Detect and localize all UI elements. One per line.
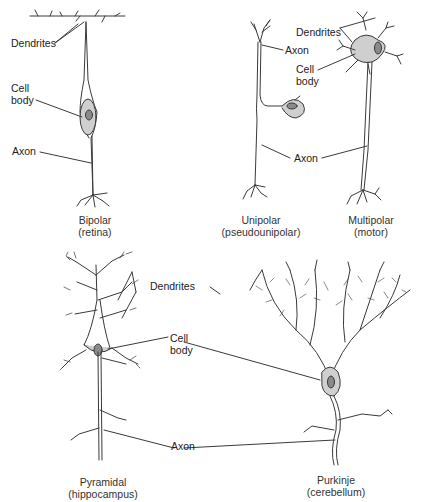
unipolar-axon-label: Axon xyxy=(285,44,309,56)
unipolar-caption: Unipolar (pseudounipolar) xyxy=(216,214,306,238)
bipolar-caption-location: (retina) xyxy=(60,226,130,238)
multipolar-caption: Multipolar (motor) xyxy=(336,214,406,238)
pyramidal-caption: Pyramidal (hippocampus) xyxy=(58,476,148,500)
lower-cell-body-label-2: body xyxy=(170,344,193,356)
bipolar-caption-name: Bipolar xyxy=(60,214,130,226)
unipolar-cell-body-label-2: body xyxy=(296,75,319,87)
unipolar-cell-body-label-1: Cell xyxy=(296,63,314,75)
neuron-diagram xyxy=(0,0,426,502)
bipolar-cell-body-label-2: body xyxy=(11,94,34,106)
unipolar-caption-location: (pseudounipolar) xyxy=(216,226,306,238)
lower-cell-body-label-1: Cell xyxy=(170,332,188,344)
multipolar-neuron xyxy=(318,12,403,204)
purkinje-neuron xyxy=(184,260,410,465)
lower-dendrites-label: Dendrites xyxy=(150,280,195,292)
bipolar-dendrites-label: Dendrites xyxy=(11,37,56,49)
purkinje-caption-name: Purkinje xyxy=(296,474,376,486)
pyramidal-caption-name: Pyramidal xyxy=(58,476,148,488)
bipolar-caption: Bipolar (retina) xyxy=(60,214,130,238)
unipolar-caption-name: Unipolar xyxy=(216,214,306,226)
bipolar-axon-label: Axon xyxy=(12,145,36,157)
purkinje-caption: Purkinje (cerebellum) xyxy=(296,474,376,498)
bipolar-cell-body-label-1: Cell xyxy=(11,82,29,94)
multipolar-caption-location: (motor) xyxy=(336,226,406,238)
multipolar-caption-name: Multipolar xyxy=(336,214,406,226)
purkinje-caption-location: (cerebellum) xyxy=(296,486,376,498)
pyramidal-caption-location: (hippocampus) xyxy=(58,488,148,500)
upper-axon-label: Axon xyxy=(294,152,318,164)
lower-axon-label: Axon xyxy=(171,440,195,452)
multipolar-dendrites-label: Dendrites xyxy=(296,26,341,38)
